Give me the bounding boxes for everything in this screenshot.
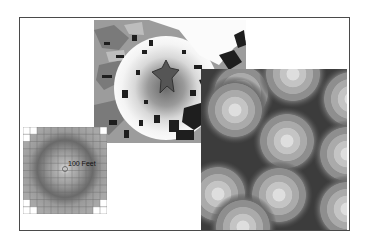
empty-cell <box>100 207 107 214</box>
empty-cell <box>30 207 37 214</box>
empty-cell <box>30 127 37 134</box>
buffer-rings <box>201 69 347 230</box>
raster-grid-panel <box>23 127 107 214</box>
empty-cell <box>23 134 30 141</box>
grid-distance-label: 100 Feet <box>68 160 96 167</box>
empty-cell <box>23 127 30 134</box>
empty-cell <box>100 200 107 207</box>
empty-cell <box>23 200 30 207</box>
empty-cell <box>23 207 30 214</box>
empty-cell <box>93 207 100 214</box>
buffer-rings-panel <box>201 69 347 230</box>
raster-grid <box>23 127 107 214</box>
empty-cell <box>100 127 107 134</box>
